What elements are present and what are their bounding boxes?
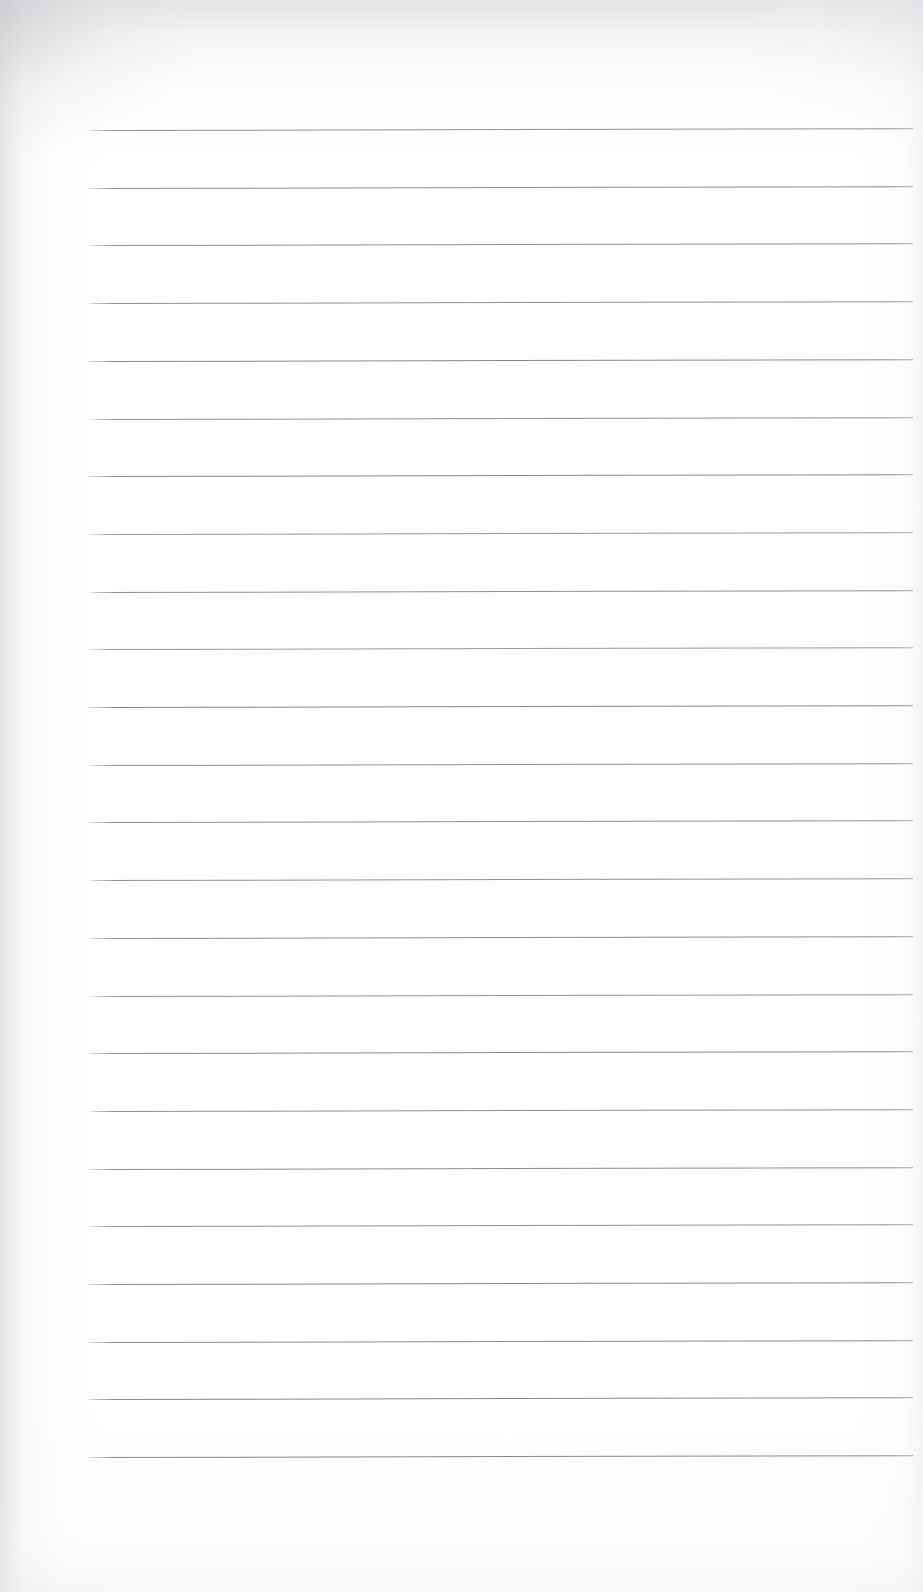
paper-background	[0, 0, 923, 1592]
notebook-page: Blank Ruled Notebook Page	[0, 0, 923, 1592]
